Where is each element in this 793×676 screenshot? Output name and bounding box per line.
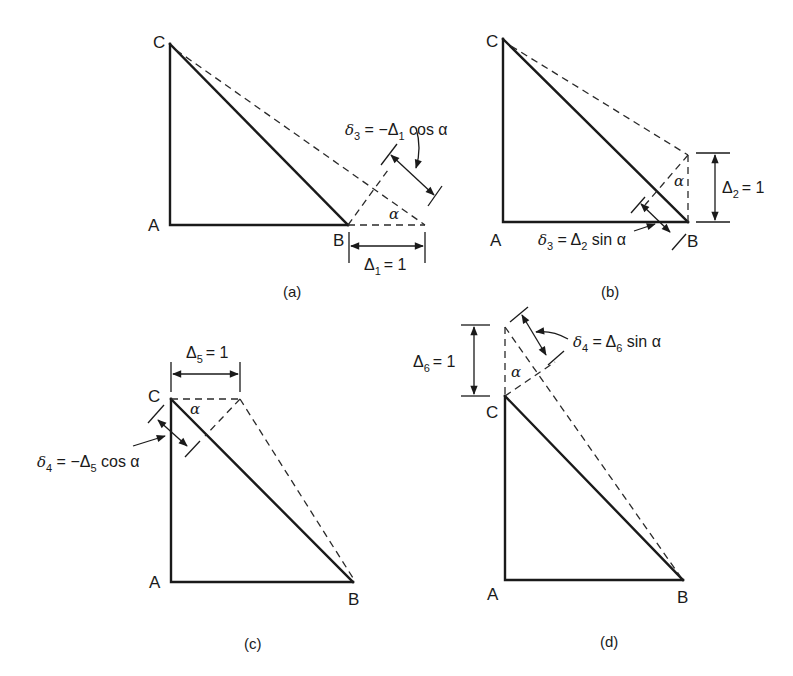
node-c-label: C: [148, 387, 160, 406]
node-b-label: B: [677, 588, 688, 607]
node-b-label: B: [333, 231, 344, 250]
dim-tick: [185, 441, 200, 457]
displacement-label: Δ2= 1: [722, 179, 765, 200]
relation-label: δ4 = Δ6 sin α: [573, 333, 661, 354]
dim-tick: [148, 405, 164, 423]
node-c-label: C: [486, 32, 498, 51]
displacement-label: Δ5= 1: [186, 344, 229, 365]
node-a-label: A: [490, 231, 502, 250]
delta-arrow: [158, 420, 187, 446]
angle-label: α: [511, 363, 521, 381]
member-cb: [505, 396, 683, 580]
displacement-label: Δ6= 1: [413, 353, 456, 374]
truss-displacement-figure: C A B α δ3 = −Δ1 cos α Δ1= 1 (a) C A B α…: [0, 0, 793, 676]
leader-arrow: [634, 224, 655, 231]
relation-label: δ3 = Δ2 sin α: [538, 231, 626, 252]
delta-arrow: [391, 155, 434, 195]
angle-label: α: [389, 205, 399, 223]
projection-line: [348, 170, 388, 225]
dim-tick: [672, 234, 686, 250]
projection-line: [205, 399, 240, 436]
node-b-label: B: [348, 590, 359, 609]
delta-arrow: [522, 315, 546, 355]
angle-label: α: [190, 400, 200, 418]
panel-caption: (b): [601, 283, 619, 300]
panel-caption: (d): [600, 633, 618, 650]
panel-caption: (c): [244, 635, 262, 652]
displaced-member-cb: [505, 327, 680, 576]
panel-c: C A B α Δ5= 1 δ4 = −Δ5 cos α (c): [37, 344, 359, 652]
leader-arrow: [536, 332, 568, 339]
panel-b: C A B α δ3 = Δ2 sin α Δ2= 1 (b): [486, 32, 765, 300]
displaced-member-cb: [240, 399, 353, 578]
member-cb: [171, 399, 353, 582]
member-cb: [503, 39, 688, 222]
angle-label: α: [674, 172, 684, 190]
panel-a: C A B α δ3 = −Δ1 cos α Δ1= 1 (a): [148, 33, 448, 300]
dim-tick: [381, 144, 397, 165]
node-a-label: A: [487, 585, 499, 604]
member-cb: [170, 44, 348, 225]
node-b-label: B: [687, 232, 698, 251]
node-c-label: C: [486, 403, 498, 422]
displaced-member-cb: [511, 46, 688, 155]
dim-tick: [428, 186, 442, 206]
dim-tick: [548, 351, 564, 365]
panel-d: C A B α Δ6= 1 δ4 = Δ6 sin α (d): [413, 307, 688, 650]
relation-label: δ3 = −Δ1 cos α: [345, 121, 448, 142]
relation-label: δ4 = −Δ5 cos α: [37, 453, 140, 474]
node-a-label: A: [149, 573, 161, 592]
panel-caption: (a): [283, 283, 301, 300]
node-a-label: A: [148, 216, 160, 235]
leader-arrow: [133, 436, 165, 446]
node-c-label: C: [153, 33, 165, 52]
displacement-label: Δ1= 1: [364, 256, 407, 277]
